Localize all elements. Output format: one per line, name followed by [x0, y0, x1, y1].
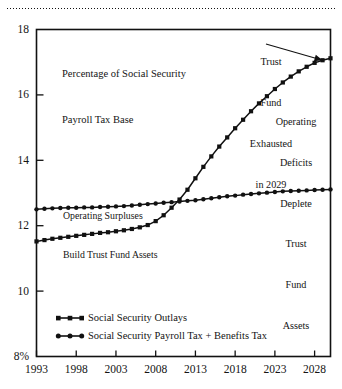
annotation-surpluses-line-1: Operating Surpluses [63, 210, 157, 223]
annotation-operating-deficits: Operating Deficits Deplete Trust Fund As… [262, 88, 330, 359]
legend-label-outlays: Social Security Outlays [88, 312, 187, 325]
x-tick-label: 2003 [96, 362, 136, 376]
legend-marker-outlays [56, 316, 84, 321]
legend-label-revenues: Social Security Payroll Tax + Benefits T… [88, 330, 267, 343]
x-tick-label: 2028 [295, 362, 335, 376]
x-tick-label: 2008 [136, 362, 176, 376]
y-tick-label: 10 [3, 284, 29, 298]
chart-title-line-2: Payroll Tax Base [62, 112, 186, 127]
y-tick-label: 12 [3, 218, 29, 232]
chart-title: Percentage of Social Security Payroll Ta… [62, 36, 186, 158]
y-tick-label: 18 [3, 22, 29, 36]
annotation-operating-surpluses: Operating Surpluses Build Trust Fund Ass… [63, 184, 157, 287]
y-axis-ticks [37, 95, 44, 291]
y-tick-label: 16 [3, 87, 29, 101]
annotation-deficits-line-1: Operating [262, 115, 330, 129]
annotation-deficits-line-3: Deplete [262, 197, 330, 211]
x-tick-label: 2013 [175, 362, 215, 376]
annotation-deficits-line-4: Trust [262, 237, 330, 251]
annotation-deficits-line-2: Deficits [262, 156, 330, 170]
legend-marker-revenues [56, 334, 84, 339]
x-tick-label: 2018 [215, 362, 255, 376]
x-tick-label: 1998 [56, 362, 96, 376]
x-tick-label: 1993 [17, 362, 57, 376]
x-tick-label: 2023 [255, 362, 295, 376]
chart-title-line-1: Percentage of Social Security [62, 66, 186, 81]
chart-figure: 18 16 14 12 10 8% 1993 1998 2003 2008 20… [0, 0, 342, 389]
annotation-deficits-line-5: Fund [262, 278, 330, 292]
annotation-deficits-line-6: Assets [262, 319, 330, 333]
y-tick-label: 14 [3, 153, 29, 167]
annotation-exhausted-line-1: Trust [238, 55, 304, 69]
annotation-surpluses-line-2: Build Trust Fund Assets [63, 249, 157, 262]
